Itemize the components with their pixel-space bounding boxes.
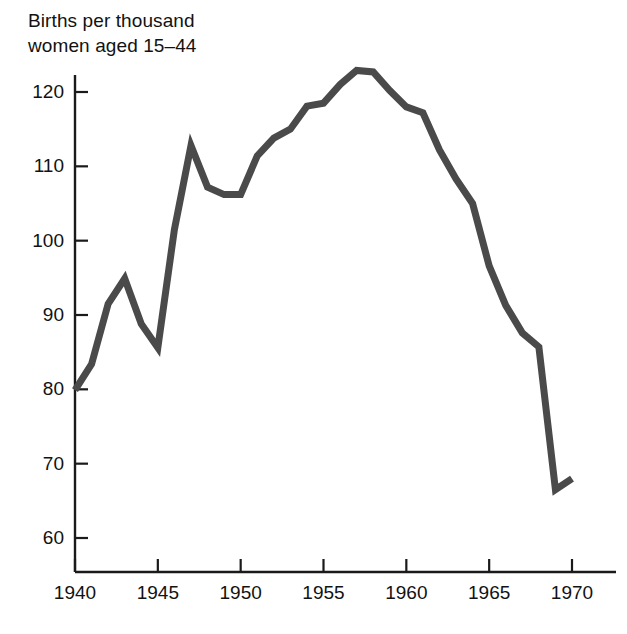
birth-rate-line-chart: Births per thousand women aged 15–44 607… <box>0 0 627 634</box>
y-axis-tick-label: 100 <box>8 230 64 252</box>
y-axis-tick-label: 110 <box>8 155 64 177</box>
x-axis-tick-label: 1970 <box>551 582 593 604</box>
x-axis-tick-label: 1955 <box>302 582 344 604</box>
birth-rate-series-line <box>75 70 572 489</box>
x-axis-tick-label: 1965 <box>468 582 510 604</box>
y-axis-tick-label: 80 <box>8 378 64 400</box>
x-axis-tick-label: 1940 <box>54 582 96 604</box>
x-axis-tick-label: 1945 <box>137 582 179 604</box>
x-axis-tick-label: 1950 <box>220 582 262 604</box>
x-ticks-group <box>75 559 572 572</box>
x-axis-tick-label: 1960 <box>385 582 427 604</box>
plot-area <box>0 0 627 634</box>
y-axis-tick-label: 60 <box>8 527 64 549</box>
y-axis-tick-label: 70 <box>8 453 64 475</box>
y-axis-tick-label: 90 <box>8 304 64 326</box>
y-axis-tick-label: 120 <box>8 81 64 103</box>
axes-group <box>75 75 616 572</box>
y-ticks-group <box>75 92 88 538</box>
